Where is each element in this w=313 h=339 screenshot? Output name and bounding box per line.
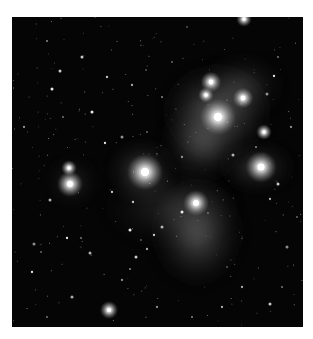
- background-star-speck: [274, 189, 275, 190]
- faint-star: [146, 131, 148, 133]
- background-star-speck: [108, 26, 109, 27]
- background-star-speck: [254, 69, 255, 70]
- background-star-speck: [157, 154, 158, 155]
- background-star-speck: [237, 126, 238, 127]
- faint-star: [277, 56, 279, 58]
- background-star-speck: [67, 147, 68, 148]
- background-star-speck: [181, 216, 182, 217]
- background-star-speck: [41, 244, 42, 245]
- faint-star: [286, 246, 289, 249]
- background-star-speck: [155, 191, 156, 192]
- background-star-speck: [221, 215, 222, 216]
- background-star-speck: [110, 190, 111, 191]
- faint-star: [146, 248, 148, 250]
- faint-star: [89, 252, 92, 255]
- faint-star: [296, 216, 298, 218]
- background-star-speck: [83, 154, 84, 155]
- faint-star: [121, 279, 123, 281]
- background-star-speck: [191, 185, 192, 186]
- background-star-speck: [54, 63, 55, 64]
- background-star-speck: [80, 225, 81, 226]
- background-star-speck: [224, 49, 225, 50]
- background-star-speck: [104, 274, 105, 275]
- faint-star: [269, 198, 271, 200]
- background-star-speck: [270, 311, 271, 312]
- background-star-speck: [86, 208, 87, 209]
- faint-star: [181, 156, 183, 158]
- background-star-speck: [116, 142, 117, 143]
- background-star-speck: [258, 268, 259, 269]
- background-star-speck: [263, 154, 264, 155]
- faint-star: [46, 316, 48, 318]
- background-star-speck: [132, 105, 133, 106]
- background-star-speck: [302, 280, 303, 281]
- background-star-speck: [140, 40, 141, 41]
- background-star-speck: [52, 68, 53, 69]
- faint-star: [62, 116, 64, 118]
- background-star-speck: [157, 298, 158, 299]
- background-star-speck: [254, 72, 255, 73]
- background-star-speck: [38, 112, 39, 113]
- faint-star: [80, 237, 82, 239]
- background-star-speck: [273, 99, 274, 100]
- background-star-speck: [223, 199, 224, 200]
- background-star-speck: [287, 266, 288, 267]
- background-star-speck: [95, 17, 96, 18]
- background-star-speck: [36, 38, 37, 39]
- background-star-speck: [158, 213, 159, 214]
- background-star-speck: [291, 177, 292, 178]
- background-star-speck: [194, 44, 195, 45]
- faint-star: [207, 212, 209, 214]
- background-star-speck: [299, 155, 300, 156]
- background-star-speck: [39, 156, 40, 157]
- background-star-speck: [32, 147, 33, 148]
- background-star-speck: [125, 74, 126, 75]
- background-star-speck: [44, 165, 45, 166]
- background-star-speck: [295, 43, 296, 44]
- background-star-speck: [202, 59, 203, 60]
- background-star-speck: [276, 231, 277, 232]
- faint-star: [106, 76, 108, 78]
- background-star-speck: [274, 50, 275, 51]
- background-star-speck: [178, 84, 179, 85]
- background-star-speck: [176, 236, 177, 237]
- bright-star: [214, 113, 222, 121]
- background-star-speck: [204, 287, 205, 288]
- background-star-speck: [209, 69, 210, 70]
- background-star-speck: [241, 301, 242, 302]
- background-star-speck: [234, 264, 235, 265]
- background-star-speck: [13, 320, 14, 321]
- background-star-speck: [140, 45, 141, 46]
- background-star-speck: [50, 118, 51, 119]
- background-star-speck: [133, 294, 134, 295]
- background-star-speck: [13, 88, 14, 89]
- background-star-speck: [20, 183, 21, 184]
- faint-star: [46, 40, 48, 42]
- background-star-speck: [279, 47, 280, 48]
- background-star-speck: [128, 101, 129, 102]
- background-star-speck: [141, 291, 142, 292]
- faint-star: [232, 154, 235, 157]
- star-cluster-photo: [12, 17, 303, 327]
- background-star-speck: [292, 206, 293, 207]
- background-star-speck: [242, 238, 243, 239]
- faint-star: [269, 303, 272, 306]
- background-star-speck: [102, 208, 103, 209]
- faint-star: [91, 111, 94, 114]
- faint-star: [255, 146, 257, 148]
- background-star-speck: [63, 226, 64, 227]
- background-star-speck: [203, 41, 204, 42]
- faint-star: [191, 316, 193, 318]
- background-star-speck: [233, 82, 234, 83]
- background-star-speck: [216, 254, 217, 255]
- background-star-speck: [171, 119, 172, 120]
- background-star-speck: [257, 313, 258, 314]
- background-star-speck: [145, 317, 146, 318]
- background-star-speck: [234, 126, 235, 127]
- bright-star: [67, 166, 71, 170]
- background-star-speck: [160, 145, 161, 146]
- faint-star: [226, 266, 228, 268]
- background-star-speck: [231, 298, 232, 299]
- background-star-speck: [266, 84, 267, 85]
- bright-star: [262, 130, 266, 134]
